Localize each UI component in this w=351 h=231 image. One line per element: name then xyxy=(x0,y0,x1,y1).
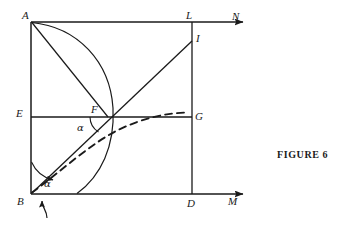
curve-dashed-B-to-G xyxy=(32,113,188,193)
vertex-label-I: I xyxy=(196,33,200,44)
vertex-label-A: A xyxy=(22,10,29,21)
angle-arc-at-F xyxy=(90,117,99,132)
vertex-label-M: M xyxy=(228,196,237,207)
vertex-label-G: G xyxy=(195,111,203,122)
vertex-label-D: D xyxy=(187,198,195,209)
vertex-label-N: N xyxy=(232,11,239,22)
geometry-figure xyxy=(0,0,351,231)
angle-label-alpha-at-B: α xyxy=(44,179,51,189)
vertex-label-E: E xyxy=(16,108,23,119)
figure-page: A L N I E F G B D M α α FIGURE 6 xyxy=(0,0,351,231)
vertex-label-B: B xyxy=(17,196,24,207)
angle-label-alpha-at-F: α xyxy=(77,123,84,133)
figure-caption: FIGURE 6 xyxy=(277,149,328,160)
vertex-label-F: F xyxy=(91,104,98,115)
vertex-label-L: L xyxy=(186,10,192,21)
pointer-arrow-below-B xyxy=(42,201,47,218)
